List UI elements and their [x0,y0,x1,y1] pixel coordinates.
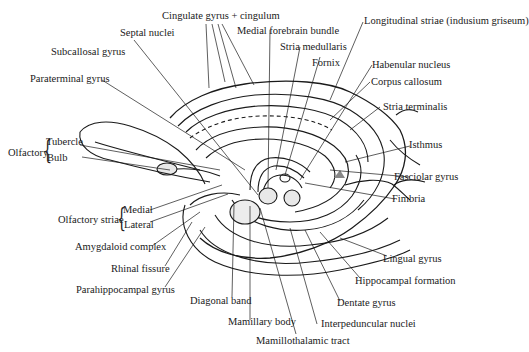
label-dentate-gyrus: Dentate gyrus [337,297,396,309]
label-subcallosal-gyrus: Subcallosal gyrus [51,46,125,58]
label-longitudinal-striae: Longitudinal striae (indusium griseum) [364,15,529,27]
label-diagonal-band: Diagonal band [190,295,252,307]
label-stria-medullaris: Stria medullaris [280,41,347,53]
label-parahippocampal-gyrus: Parahippocampal gyrus [76,284,175,296]
label-cingulate-gyrus: Cingulate gyrus + cingulum [162,10,280,22]
label-mamillothalamic-tract: Mamillothalamic tract [256,335,350,347]
label-fimbria: Fimbria [392,193,425,205]
label-lingual-gyrus: Lingual gyrus [383,253,442,265]
label-stria-terminalis: Stria terminalis [383,101,447,113]
label-interpeduncular-nuclei: Interpeduncular nuclei [321,318,416,330]
label-olfactory-tubercle: Tubercle [46,136,83,148]
label-medial-forebrain-bundle: Medial forebrain bundle [237,25,339,37]
label-rhinal-fissure: Rhinal fissure [111,263,170,275]
label-olfactory-bulb: Bulb [47,152,67,164]
label-amygdaloid-complex: Amygdaloid complex [75,241,166,253]
label-olfactory-striae-lateral: Lateral [124,219,154,231]
label-olfactory-striae-medial: Medial [123,204,153,216]
label-hippocampal-formation: Hippocampal formation [355,275,456,287]
label-isthmus: Isthmus [409,139,442,151]
label-paraterminal-gyrus: Paraterminal gyrus [30,73,110,85]
label-fasciolar-gyrus: Fasciolar gyrus [394,171,458,183]
label-fornix: Fornix [312,57,340,69]
label-olfactory-striae: Olfactory striae [58,214,124,226]
label-septal-nuclei: Septal nuclei [120,27,175,39]
label-mamillary-body: Mamillary body [228,316,296,328]
label-habenular-nucleus: Habenular nucleus [372,59,450,71]
label-corpus-callosum: Corpus callosum [371,76,442,88]
